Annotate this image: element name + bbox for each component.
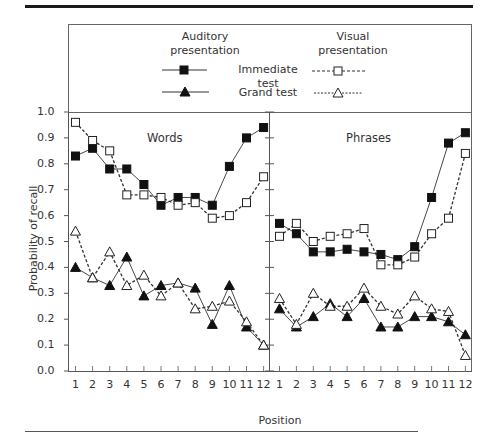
filled-square-marker (360, 248, 368, 256)
open-square-marker (445, 214, 453, 222)
open-square-marker (292, 219, 300, 227)
open-triangle-marker (359, 283, 369, 292)
filled-square-marker (428, 193, 436, 201)
open-square-marker (276, 232, 284, 240)
series-line (280, 288, 466, 355)
filled-square-marker (326, 248, 334, 256)
open-square-marker (123, 191, 131, 199)
open-triangle-marker (207, 301, 217, 310)
filled-triangle-marker (207, 319, 217, 328)
filled-square-marker (225, 162, 233, 170)
open-square-marker (360, 225, 368, 233)
open-triangle-marker (139, 270, 149, 279)
filled-square-marker (377, 250, 385, 258)
filled-square-marker (243, 134, 251, 142)
open-square-marker (208, 214, 216, 222)
open-square-marker (377, 261, 385, 269)
series-line (76, 122, 264, 218)
open-square-marker (243, 199, 251, 207)
open-square-marker (72, 118, 80, 126)
open-triangle-marker (427, 304, 437, 313)
filled-triangle-marker (308, 312, 318, 321)
open-triangle-marker (460, 350, 470, 359)
filled-square-marker (123, 165, 131, 173)
filled-triangle-marker (224, 281, 234, 290)
open-triangle-marker (275, 293, 285, 302)
filled-triangle-marker (105, 281, 115, 290)
open-square-marker (343, 230, 351, 238)
open-triangle-marker (173, 278, 183, 287)
open-square-marker (225, 212, 233, 220)
open-triangle-marker (376, 301, 386, 310)
open-square-marker (394, 261, 402, 269)
open-square-marker (174, 201, 182, 209)
filled-square-marker (180, 66, 188, 74)
filled-square-marker (140, 181, 148, 189)
series-line (76, 128, 264, 206)
filled-square-marker (309, 248, 317, 256)
open-square-marker (326, 232, 334, 240)
open-square-marker (157, 193, 165, 201)
filled-triangle-marker (71, 262, 81, 271)
filled-square-marker (461, 129, 469, 137)
open-square-marker (89, 136, 97, 144)
filled-triangle-marker (410, 312, 420, 321)
filled-square-marker (343, 245, 351, 253)
open-triangle-marker (308, 288, 318, 297)
open-square-marker (334, 67, 342, 75)
filled-square-marker (174, 193, 182, 201)
series-line (280, 153, 466, 264)
open-triangle-marker (122, 281, 132, 290)
open-square-marker (106, 147, 114, 155)
series-line (76, 257, 264, 345)
filled-square-marker (260, 124, 268, 132)
filled-square-marker (72, 152, 80, 160)
open-square-marker (411, 253, 419, 261)
open-square-marker (191, 199, 199, 207)
open-triangle-marker (105, 247, 115, 256)
open-triangle-marker (291, 319, 301, 328)
filled-triangle-marker (122, 252, 132, 261)
filled-square-marker (157, 201, 165, 209)
filled-square-marker (276, 219, 284, 227)
filled-triangle-marker (190, 283, 200, 292)
series-line (76, 231, 264, 345)
filled-square-marker (106, 165, 114, 173)
filled-triangle-marker (359, 293, 369, 302)
filled-triangle-marker (376, 322, 386, 331)
plot-area (0, 0, 500, 445)
series-line (280, 133, 466, 260)
open-square-marker (461, 149, 469, 157)
open-triangle-marker (71, 226, 81, 235)
series-line (280, 298, 466, 334)
open-triangle-marker (224, 296, 234, 305)
open-square-marker (309, 238, 317, 246)
filled-square-marker (208, 201, 216, 209)
filled-square-marker (292, 230, 300, 238)
open-square-marker (260, 173, 268, 181)
open-square-marker (428, 230, 436, 238)
filled-square-marker (411, 243, 419, 251)
open-triangle-marker (333, 88, 343, 97)
filled-triangle-marker (139, 291, 149, 300)
open-triangle-marker (88, 273, 98, 282)
filled-triangle-marker (275, 304, 285, 313)
filled-triangle-marker (460, 330, 470, 339)
open-square-marker (140, 191, 148, 199)
filled-square-marker (89, 144, 97, 152)
filled-triangle-marker (393, 322, 403, 331)
filled-square-marker (445, 139, 453, 147)
open-triangle-marker (410, 291, 420, 300)
bottom-rule (25, 431, 418, 432)
